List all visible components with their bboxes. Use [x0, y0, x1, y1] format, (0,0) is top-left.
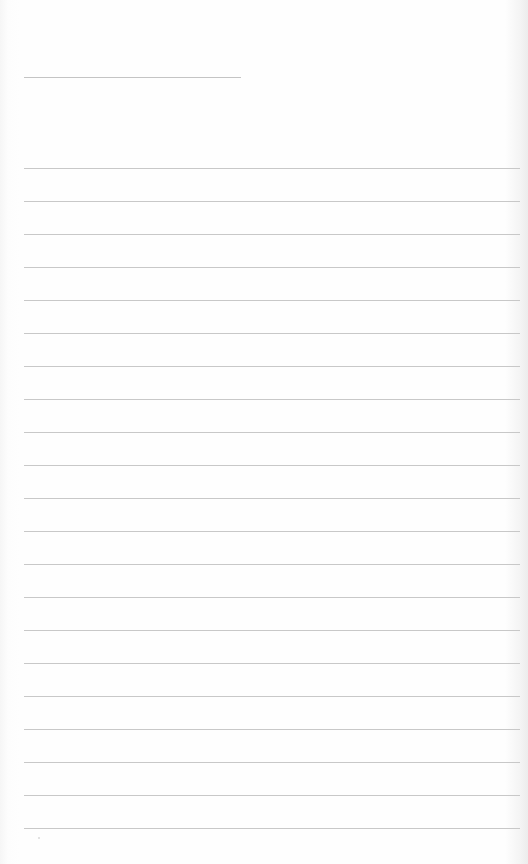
- ruled-line: [24, 201, 520, 202]
- ruled-line: [24, 399, 520, 400]
- ruled-line: [24, 333, 520, 334]
- lined-paper-page: [0, 0, 528, 864]
- ruled-line: [24, 168, 520, 169]
- title-line: [24, 77, 241, 78]
- ruled-line: [24, 597, 520, 598]
- ruled-line: [24, 465, 520, 466]
- ruled-line: [24, 828, 520, 829]
- ruled-line: [24, 300, 520, 301]
- ruled-line: [24, 762, 520, 763]
- ruled-line: [24, 663, 520, 664]
- ruled-line: [24, 366, 520, 367]
- ruled-line: [24, 432, 520, 433]
- ruled-line: [24, 498, 520, 499]
- ruled-line: [24, 630, 520, 631]
- paper-speck: [38, 837, 40, 839]
- ruled-line: [24, 696, 520, 697]
- ruled-line: [24, 564, 520, 565]
- ruled-line: [24, 795, 520, 796]
- ruled-line: [24, 234, 520, 235]
- ruled-line: [24, 729, 520, 730]
- ruled-line: [24, 531, 520, 532]
- ruled-line: [24, 267, 520, 268]
